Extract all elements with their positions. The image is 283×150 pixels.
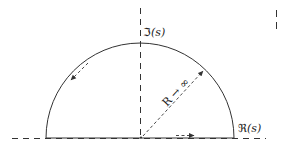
origin-point [140,136,142,138]
radius-label: R → ∞ [160,76,192,109]
contour-diagram: ℑ(s) ℜ(s) R → ∞ [0,0,283,150]
imaginary-axis-label: ℑ(s) [143,26,165,39]
real-axis-label: ℜ(s) [238,122,261,135]
